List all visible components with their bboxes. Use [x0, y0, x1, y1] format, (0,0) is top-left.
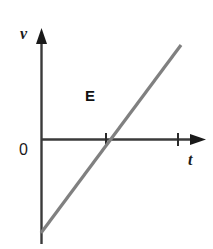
region-label-e: E — [85, 88, 95, 103]
v-axis-label: v — [20, 26, 27, 42]
v-axis-arrowhead — [36, 28, 47, 44]
origin-label: 0 — [19, 142, 28, 158]
graph-canvas — [0, 0, 213, 249]
velocity-time-graph: v t 0 E — [0, 0, 213, 249]
t-axis-label: t — [188, 152, 192, 168]
t-axis-arrowhead — [190, 134, 206, 145]
